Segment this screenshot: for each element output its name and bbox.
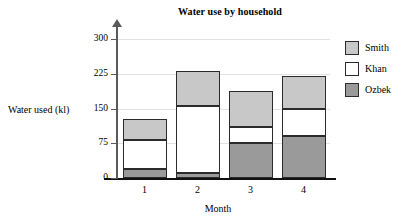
legend-item[interactable]: Ozbek [345, 82, 411, 103]
bar-stack[interactable] [123, 30, 167, 178]
y-tick-label-wrap: 150 [78, 104, 108, 114]
bar-segment-khan[interactable] [123, 140, 167, 169]
bar-segment-smith[interactable] [176, 71, 220, 106]
bar-segment-khan[interactable] [176, 106, 220, 173]
bar-stack[interactable] [282, 30, 326, 178]
y-tick-mark [111, 74, 118, 75]
y-tick-mark [111, 109, 118, 110]
bar-segment-khan[interactable] [229, 127, 273, 143]
legend-item[interactable]: Smith [345, 40, 411, 61]
bar-segment-ozbek[interactable] [229, 143, 273, 178]
bar-segment-khan[interactable] [282, 109, 326, 136]
legend-label: Smith [365, 42, 389, 53]
y-tick-label: 225 [82, 69, 108, 78]
chart-title: Water use by household [110, 6, 350, 17]
legend-swatch-khan [345, 62, 359, 76]
y-tick-mark [111, 143, 118, 144]
bar-segment-smith[interactable] [282, 76, 326, 109]
bar-segment-smith[interactable] [123, 119, 167, 140]
y-axis-line [116, 26, 118, 179]
bar-stack[interactable] [176, 30, 220, 178]
plot-area [118, 30, 330, 178]
y-tick-label-wrap: 225 [78, 69, 108, 79]
x-tick-label: 3 [236, 184, 266, 195]
y-tick-label: 75 [82, 138, 108, 147]
legend-item[interactable]: Khan [345, 61, 411, 82]
x-axis-label: Month [118, 203, 318, 214]
y-tick-mark [111, 178, 118, 179]
x-axis-line [104, 178, 336, 180]
x-tick-label: 2 [183, 184, 213, 195]
y-tick-label: 300 [82, 34, 108, 43]
legend-swatch-smith [345, 41, 359, 55]
bar-stack[interactable] [229, 30, 273, 178]
y-tick-mark [111, 39, 118, 40]
legend-label: Ozbek [365, 84, 391, 95]
y-tick-label-wrap: 75 [78, 138, 108, 148]
y-tick-label: 0 [82, 173, 108, 182]
y-tick-label-wrap: 0 [78, 173, 108, 183]
y-tick-label-wrap: 300 [78, 34, 108, 44]
bar-segment-smith[interactable] [229, 91, 273, 127]
x-tick-label: 1 [130, 184, 160, 195]
bar-segment-ozbek[interactable] [282, 136, 326, 178]
y-tick-label: 150 [82, 104, 108, 113]
chart-container: Water use by household Water used (kl) 0… [0, 0, 413, 223]
legend-swatch-ozbek [345, 83, 359, 97]
legend: SmithKhanOzbek [345, 40, 411, 103]
bar-segment-ozbek[interactable] [123, 169, 167, 178]
legend-label: Khan [365, 63, 387, 74]
x-tick-label: 4 [289, 184, 319, 195]
y-axis-label: Water used (kl) [8, 104, 69, 115]
